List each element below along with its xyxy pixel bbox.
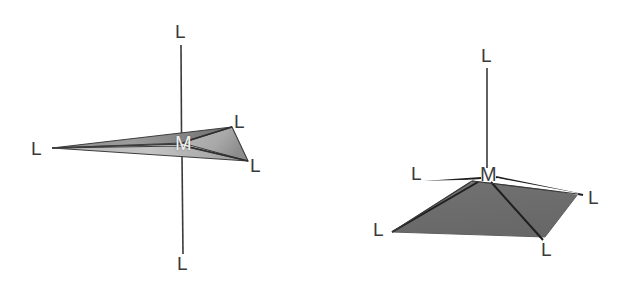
ligand-label-apical-top-right-structure: L [481, 46, 492, 65]
ligand-label-basal-lower-right: L [541, 240, 552, 259]
metal-center-label-right-structure: M [480, 164, 497, 184]
molecular-geometry-figure: L L L L L M L L L L L M [0, 0, 628, 289]
square-pyramidal-structure [0, 0, 628, 289]
ligand-label-basal-right: L [588, 188, 599, 207]
ligand-label-basal-upper-left: L [411, 164, 422, 183]
ligand-label-basal-lower-left: L [373, 220, 384, 239]
plane-ridge-highlight-left [424, 181, 472, 182]
